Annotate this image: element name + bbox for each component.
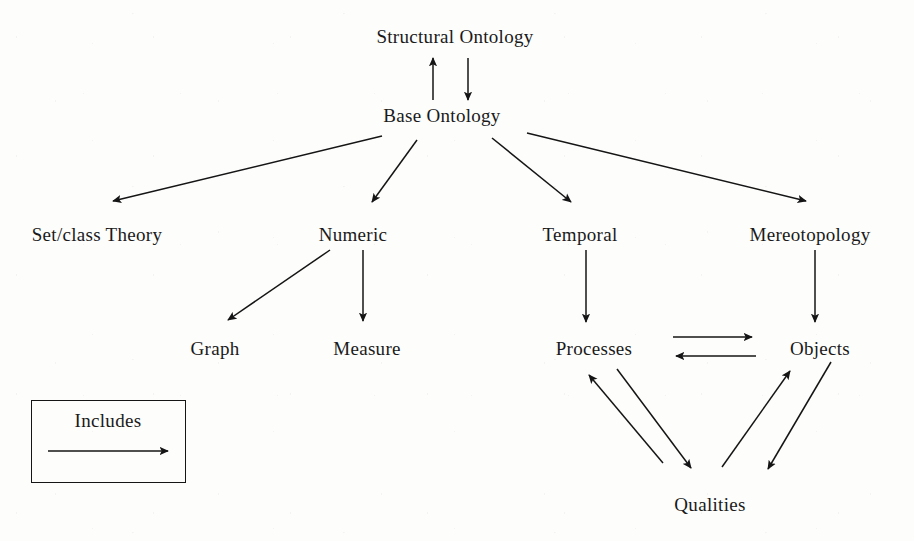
- legend-label: Includes: [75, 411, 142, 431]
- edge-base_ontology-to-temporal: [492, 138, 571, 202]
- edge-qualities-to-objects: [722, 371, 790, 467]
- edge-base_ontology-to-set_class_theory: [113, 136, 382, 201]
- node-base_ontology: Base Ontology: [383, 106, 500, 126]
- node-set_class_theory: Set/class Theory: [32, 225, 163, 245]
- node-numeric: Numeric: [319, 225, 388, 245]
- node-graph: Graph: [191, 339, 240, 359]
- node-qualities: Qualities: [674, 495, 745, 515]
- edge-base_ontology-to-mereotopology: [527, 133, 806, 201]
- edge-qualities-to-processes: [589, 375, 663, 463]
- node-measure: Measure: [333, 339, 401, 359]
- node-mereotopology: Mereotopology: [749, 225, 870, 245]
- diagram-canvas: Includes Structural OntologyBase Ontolog…: [0, 0, 914, 541]
- edge-numeric-to-graph: [228, 250, 330, 320]
- node-structural_ontology: Structural Ontology: [376, 27, 533, 47]
- edge-base_ontology-to-numeric: [372, 140, 417, 202]
- edge-objects-to-qualities: [768, 362, 831, 469]
- node-temporal: Temporal: [543, 225, 618, 245]
- node-processes: Processes: [556, 339, 633, 359]
- node-objects: Objects: [790, 339, 850, 359]
